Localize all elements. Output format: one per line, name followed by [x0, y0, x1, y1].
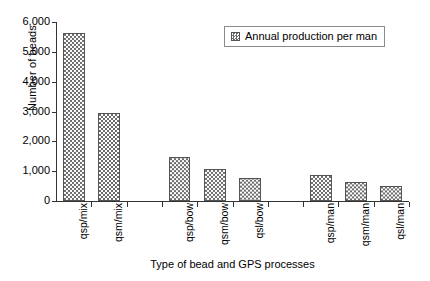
y-tick-label: 6,000	[6, 16, 50, 27]
bar	[310, 175, 332, 201]
y-tick-mark	[52, 52, 57, 53]
y-tick-mark	[52, 22, 57, 23]
bar	[63, 33, 85, 201]
x-tick-label: qsm/mix	[113, 203, 124, 242]
x-tick-mark	[409, 202, 410, 207]
y-tick-mark	[52, 82, 57, 83]
y-tick-label: 3,000	[6, 106, 50, 117]
x-tick-label: qsm/bow	[219, 203, 230, 245]
y-axis-tick-labels: 6,0005,0004,0003,0002,0001,0000	[0, 0, 50, 281]
x-tick-label: qsp/bow	[184, 203, 195, 242]
x-axis-tick-labels: qsp/mixqsm/mixqsp/bowqsm/bowqsl/bowqsp/m…	[56, 203, 409, 255]
y-tick-label: 4,000	[6, 76, 50, 87]
y-tick-mark	[52, 171, 57, 172]
y-tick-mark	[52, 201, 57, 202]
x-tick-label: qsp/mix	[78, 203, 89, 239]
bar-chart: Number of beads 6,0005,0004,0003,0002,00…	[0, 0, 430, 281]
x-tick-label: qsm/man	[360, 203, 371, 246]
bar	[380, 186, 402, 202]
plot-area	[56, 22, 409, 201]
bar	[169, 157, 191, 201]
bar	[98, 113, 120, 201]
y-tick-label: 5,000	[6, 46, 50, 57]
chart-legend: Annual production per man	[224, 26, 385, 47]
y-tick-label: 2,000	[6, 135, 50, 146]
x-tick-label: qsl/man	[395, 203, 406, 240]
x-axis-title: Type of bead and GPS processes	[56, 258, 409, 270]
bar	[239, 178, 261, 201]
x-tick-label: qsl/bow	[254, 203, 265, 239]
bar	[345, 182, 367, 201]
bar	[204, 169, 226, 201]
y-tick-label: 1,000	[6, 165, 50, 176]
x-tick-label: qsp/man	[325, 203, 336, 243]
legend-label: Annual production per man	[245, 30, 377, 42]
y-tick-label: 0	[6, 195, 50, 206]
legend-swatch-icon	[231, 32, 240, 41]
y-tick-mark	[52, 141, 57, 142]
y-tick-mark	[52, 112, 57, 113]
